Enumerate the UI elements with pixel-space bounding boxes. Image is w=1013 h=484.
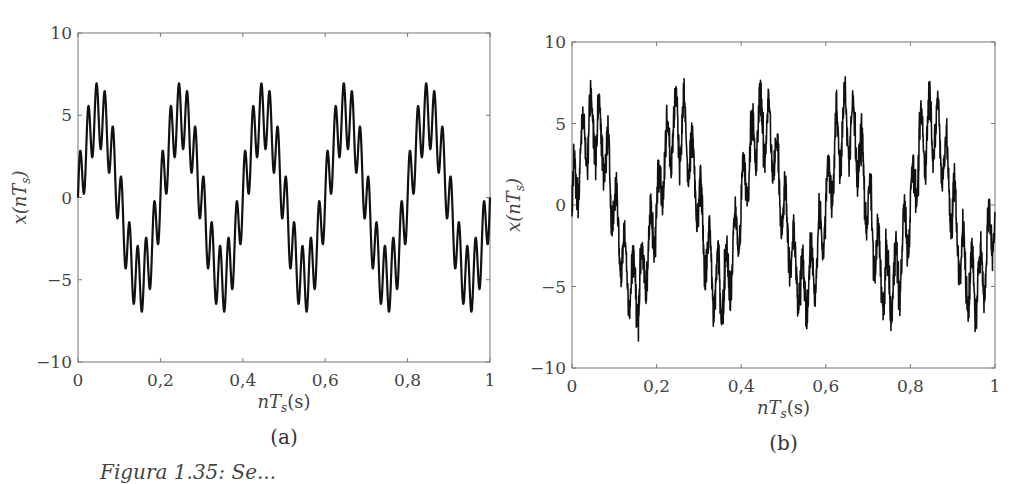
y-tick-label: −5 [47,270,72,290]
x-tick-label: 0,2 [643,376,670,396]
y-axis-label: x(nTs) [9,171,33,225]
x-tick-label: 0 [567,376,578,396]
x-tick-label: 0,2 [147,370,174,390]
plot-panel-b: 00,20,40,60,81−10−50510nTs(s)x(nTs)(b) [503,32,1000,455]
y-tick-label: 10 [544,32,566,52]
x-axis-label: nTs(s) [257,391,310,415]
y-tick-label: −10 [36,352,72,372]
panel-label: (b) [769,431,797,455]
x-tick-label: 0,6 [812,376,839,396]
y-axis-label: x(nTs) [503,178,527,232]
signal-line [78,83,490,311]
x-axis-label: nTs(s) [757,397,810,421]
y-tick-label: 0 [555,195,566,215]
y-tick-label: −5 [541,277,566,297]
y-tick-label: 10 [50,23,72,43]
panel-label: (a) [270,425,298,449]
x-tick-label: 0,8 [897,376,924,396]
figure-caption: Figura 1.35: Se... [100,460,276,484]
x-tick-label: 1 [990,376,1001,396]
y-tick-label: 5 [61,105,72,125]
y-tick-label: −10 [530,358,566,378]
x-tick-label: 0,6 [312,370,339,390]
x-tick-label: 0,4 [728,376,755,396]
x-tick-label: 0,4 [229,370,256,390]
x-tick-label: 0 [73,370,84,390]
x-tick-label: 0,8 [394,370,421,390]
y-tick-label: 5 [555,114,566,134]
signal-line [572,77,995,341]
y-tick-label: 0 [61,188,72,208]
x-tick-label: 1 [485,370,496,390]
plot-panel-a: 00,20,40,60,81−10−50510nTs(s)x(nTs)(a) [9,23,495,449]
